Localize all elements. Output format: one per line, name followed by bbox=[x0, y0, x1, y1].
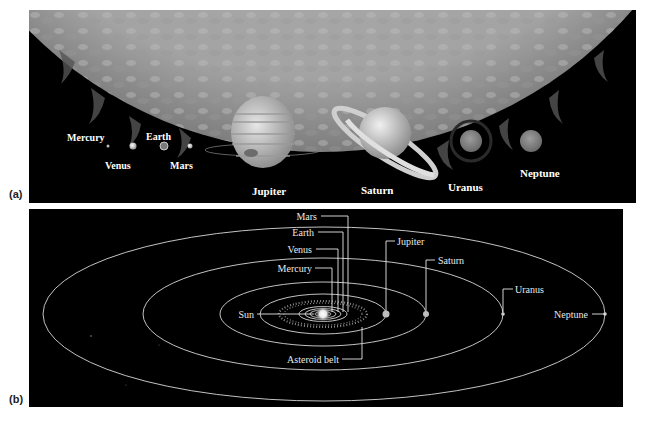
panel-a-tag: (a) bbox=[9, 188, 22, 200]
label-neptune: Neptune bbox=[554, 309, 588, 320]
label-uranus: Uranus bbox=[448, 181, 484, 193]
uranus-icon bbox=[451, 121, 491, 161]
panel-b-illustration: Mars Earth Venus Mercury Sun Asteroid be… bbox=[29, 209, 623, 407]
label-mars: Mars bbox=[296, 211, 317, 222]
sun-icon bbox=[314, 305, 332, 323]
earth-icon bbox=[160, 142, 168, 150]
leader-mars bbox=[321, 216, 348, 312]
panel-a-illustration: Mercury Venus Earth Mars Jupiter Saturn … bbox=[29, 10, 636, 203]
saturn-dot bbox=[423, 311, 429, 317]
label-mars: Mars bbox=[170, 160, 193, 171]
leader-jupiter bbox=[386, 241, 395, 311]
panel-a-planet-sizes: Mercury Venus Earth Mars Jupiter Saturn … bbox=[29, 10, 636, 203]
panel-b-tag: (b) bbox=[9, 393, 23, 405]
uranus-dot bbox=[501, 312, 505, 316]
label-venus: Venus bbox=[288, 244, 313, 255]
panel-b-orbits: Mars Earth Venus Mercury Sun Asteroid be… bbox=[29, 209, 623, 407]
venus-icon bbox=[130, 143, 137, 150]
label-jupiter: Jupiter bbox=[252, 185, 286, 197]
label-mercury: Mercury bbox=[67, 132, 105, 143]
mars-icon bbox=[188, 144, 193, 149]
leader-uranus bbox=[503, 289, 513, 312]
label-earth: Earth bbox=[292, 227, 314, 238]
label-uranus: Uranus bbox=[515, 284, 544, 295]
label-sun: Sun bbox=[238, 309, 254, 320]
jupiter-dot bbox=[383, 311, 390, 318]
jupiter-icon bbox=[231, 96, 295, 168]
label-earth: Earth bbox=[146, 131, 171, 142]
label-saturn: Saturn bbox=[361, 184, 393, 196]
neptune-icon bbox=[520, 130, 542, 152]
label-jupiter: Jupiter bbox=[397, 236, 425, 247]
mercury-icon bbox=[107, 145, 110, 148]
label-saturn: Saturn bbox=[438, 255, 464, 266]
label-asteroid-belt: Asteroid belt bbox=[287, 354, 339, 365]
leader-saturn bbox=[426, 260, 435, 311]
label-neptune: Neptune bbox=[520, 167, 560, 179]
sun-disc bbox=[29, 10, 636, 170]
label-mercury: Mercury bbox=[278, 263, 312, 274]
leader-earth bbox=[318, 232, 343, 312]
label-venus: Venus bbox=[105, 160, 131, 171]
